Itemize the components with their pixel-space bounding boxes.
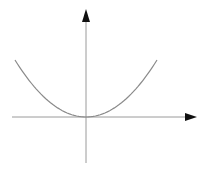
x-axis-arrow-icon xyxy=(185,113,197,121)
chart-figure xyxy=(0,0,206,169)
plot-area xyxy=(0,0,206,169)
y-axis-arrow-icon xyxy=(82,9,90,22)
